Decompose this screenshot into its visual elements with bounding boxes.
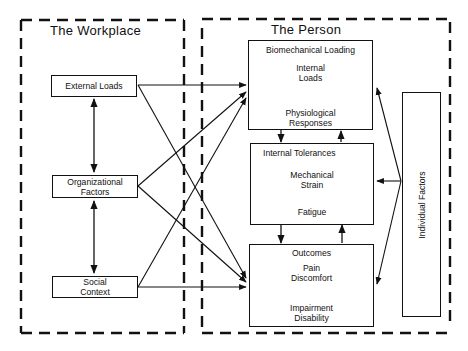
outcomes-heading: Outcomes [250, 248, 373, 258]
fatigue-label: Fatigue [251, 207, 373, 217]
workplace-to-person-arrows [138, 85, 246, 287]
social-context-line2: Context [80, 287, 110, 297]
external-loads-box: External Loads [51, 75, 137, 97]
workplace-title: The Workplace [50, 23, 141, 38]
disability-line: Disability [250, 313, 373, 323]
fatigue-line1: Fatigue [251, 207, 373, 217]
mechanical-strain-label: Mechanical Strain [251, 170, 373, 190]
physiological-responses-label: Physiological Responses [249, 108, 372, 128]
physiological-responses-line2: Responses [249, 118, 372, 128]
impairment-line: Impairment [250, 303, 373, 313]
pain-line: Pain [250, 263, 373, 273]
biomechanical-loading-heading: Biomechanical Loading [249, 45, 372, 55]
mechanical-strain-line2: Strain [251, 180, 373, 190]
outcomes-box: Outcomes Pain Discomfort Impairment Disa… [249, 244, 374, 327]
external-loads-label: External Loads [65, 81, 122, 91]
organizational-factors-box: Organizational Factors [52, 175, 138, 198]
social-context-box: Social Context [52, 276, 138, 298]
social-context-line1: Social [83, 277, 106, 287]
individual-factors-box: Individual Factors [402, 92, 441, 317]
internal-tolerances-box: Internal Tolerances Mechanical Strain Fa… [250, 143, 374, 225]
impairment-disability-label: Impairment Disability [250, 303, 373, 323]
pain-discomfort-label: Pain Discomfort [250, 263, 373, 283]
biomechanical-loading-box: Biomechanical Loading Internal Loads Phy… [248, 40, 373, 130]
internal-tolerances-heading: Internal Tolerances [263, 148, 373, 158]
discomfort-line: Discomfort [250, 273, 373, 283]
organizational-factors-line1: Organizational [67, 177, 122, 187]
organizational-factors-line2: Factors [81, 187, 110, 197]
individual-factors-arrows [377, 88, 401, 284]
internal-loads-label: Internal Loads [249, 63, 372, 83]
internal-loads-line1: Internal [249, 63, 372, 73]
mechanical-strain-line1: Mechanical [251, 170, 373, 180]
internal-loads-line2: Loads [249, 73, 372, 83]
individual-factors-label: Individual Factors [417, 171, 427, 238]
person-title: The Person [271, 22, 341, 37]
physiological-responses-line1: Physiological [249, 108, 372, 118]
